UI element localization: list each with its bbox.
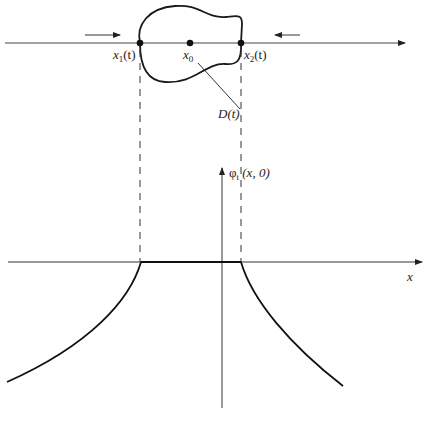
label-domain: D(t) — [218, 107, 240, 120]
diagram-svg — [0, 0, 429, 422]
point-x0 — [187, 40, 194, 47]
label-x2: x2(t) — [244, 48, 267, 64]
phi-left-curve — [7, 262, 141, 382]
phi-right-curve — [241, 262, 343, 386]
point-x2 — [238, 40, 245, 47]
label-x0: x0 — [183, 48, 193, 64]
point-x1 — [137, 40, 144, 47]
label-phi-axis: φt (x, 0) — [229, 166, 270, 182]
label-x-axis: x — [407, 270, 413, 283]
diagram-canvas: x1(t) x0 x2(t) D(t) φt (x, 0) x — [0, 0, 429, 422]
label-x1: x1(t) — [113, 48, 136, 64]
domain-leader-line — [198, 63, 240, 109]
